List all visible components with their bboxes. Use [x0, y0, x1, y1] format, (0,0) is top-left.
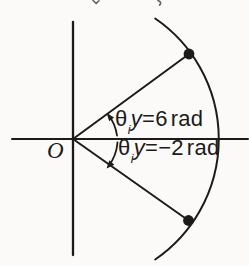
cropped-text-fragment-left: [93, 1, 99, 4]
upper-angle-label: θiy=6rad: [115, 108, 203, 130]
theta-subscript: i: [131, 151, 134, 166]
angle-value: 6: [155, 106, 168, 131]
angle-unit: rad: [187, 135, 220, 160]
theta-symbol: θ: [115, 106, 128, 131]
diagram-svg: [0, 0, 249, 266]
equals-sign: =: [145, 135, 158, 160]
equals-sign: =: [142, 106, 155, 131]
upper-point-dot: [184, 49, 195, 60]
angle-value: −2: [158, 135, 184, 160]
upper-angle-arrowhead: [107, 113, 114, 121]
lower-point-dot: [183, 215, 194, 226]
cropped-text-fragment-right: [158, 1, 161, 6]
variable-y: y: [134, 135, 145, 160]
figure-canvas: O θiy=6rad θiy=−2rad: [0, 0, 249, 266]
theta-symbol: θ: [118, 135, 131, 160]
variable-y: y: [131, 106, 142, 131]
origin-label: O: [47, 139, 64, 162]
lower-angle-label: θiy=−2rad: [118, 137, 220, 159]
angle-unit: rad: [171, 106, 204, 131]
